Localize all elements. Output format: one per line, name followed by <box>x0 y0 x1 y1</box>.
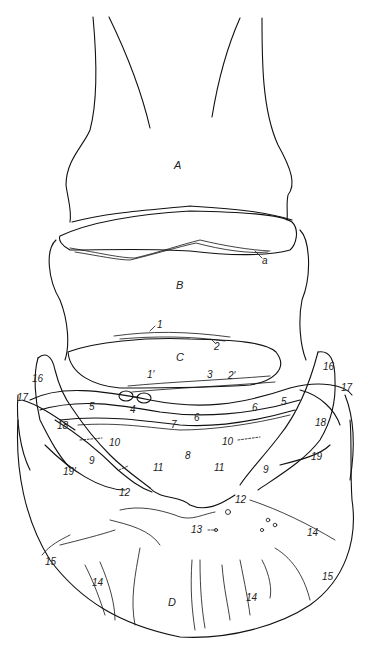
label-18-left: 18 <box>57 421 68 431</box>
label-region-a: A <box>174 160 181 171</box>
label-7: 7 <box>171 420 177 430</box>
label-6-left: 6 <box>194 413 200 423</box>
label-17-left: 17 <box>17 393 28 403</box>
label-1: 1 <box>157 320 163 330</box>
label-17-right: 17 <box>341 383 352 393</box>
bone-a-outline <box>66 17 292 222</box>
label-14-right-bottom: 14 <box>246 593 257 603</box>
label-a: a <box>262 256 268 266</box>
right-wing-outline <box>240 352 353 490</box>
label-10-left: 10 <box>109 438 120 448</box>
label-4: 4 <box>130 405 136 415</box>
label-2-prime: 2′ <box>228 371 235 381</box>
label-region-c: C <box>176 352 184 363</box>
label-9-left: 9 <box>89 456 95 466</box>
leader-lines <box>80 251 262 530</box>
label-15-right: 15 <box>322 572 333 582</box>
label-5-right: 5 <box>281 397 287 407</box>
label-6-right: 6 <box>252 403 258 413</box>
label-12-left: 12 <box>119 488 130 498</box>
label-16-left: 16 <box>32 374 43 384</box>
label-19-right: 19 <box>311 452 322 462</box>
label-12-right: 12 <box>235 495 246 505</box>
label-19-left: 19′ <box>63 467 76 477</box>
label-9-right: 9 <box>263 465 269 475</box>
label-15-left: 15 <box>45 557 56 567</box>
label-11-left: 11 <box>153 463 163 473</box>
label-region-b: B <box>176 280 183 291</box>
label-11-right: 11 <box>214 463 224 473</box>
bone-c-outline <box>68 339 281 403</box>
label-1-prime: 1′ <box>147 370 154 380</box>
label-3: 3 <box>207 370 213 380</box>
label-16-right: 16 <box>323 362 334 372</box>
label-2: 2 <box>214 342 220 352</box>
label-10-right: 10 <box>222 437 233 447</box>
label-14-right-top: 14 <box>307 528 318 538</box>
label-13: 13 <box>191 525 202 535</box>
label-region-d: D <box>168 597 176 608</box>
label-14-left: 14 <box>92 578 103 588</box>
label-18-right: 18 <box>315 418 326 428</box>
label-8: 8 <box>185 451 191 461</box>
label-5-left: 5 <box>89 402 95 412</box>
